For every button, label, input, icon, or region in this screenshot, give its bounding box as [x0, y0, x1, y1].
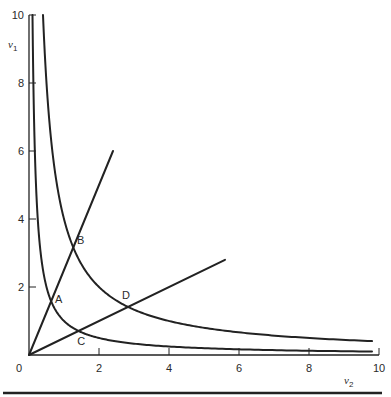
point-label-a: A: [55, 293, 63, 305]
y-axis-label: ν1: [8, 38, 18, 53]
ray-shallow: [29, 260, 225, 355]
x-tick-label: 10: [373, 362, 385, 374]
point-label-c: C: [77, 335, 85, 347]
point-label-b: B: [77, 234, 84, 246]
y-tick-label: 6: [18, 145, 24, 157]
y-tick-label: 2: [18, 281, 24, 293]
axes: 0246810246810: [12, 9, 385, 374]
hyperbola-inner: [33, 15, 373, 352]
series-group: [29, 15, 372, 355]
x-tick-label: 2: [96, 362, 102, 374]
x-tick-label: 8: [306, 362, 312, 374]
y-tick-label: 8: [18, 77, 24, 89]
point-label-d: D: [122, 289, 130, 301]
y-tick-label: 4: [18, 213, 24, 225]
labels-group: ABCD: [55, 234, 130, 347]
x-tick-label: 0: [16, 362, 22, 374]
x-tick-label: 4: [166, 362, 172, 374]
y-tick-label: 10: [12, 9, 24, 21]
hyperbola-outer: [43, 15, 372, 341]
chart: 0246810246810 ABCD ν1 ν2: [0, 0, 391, 397]
x-tick-label: 6: [236, 362, 242, 374]
x-axis-label: ν2: [344, 374, 354, 389]
